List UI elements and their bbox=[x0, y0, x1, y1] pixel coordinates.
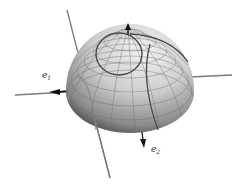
e2-label: e2 bbox=[151, 144, 160, 155]
e2-arrow-icon bbox=[140, 132, 146, 148]
hemisphere bbox=[66, 24, 194, 133]
e1-label: e1 bbox=[42, 70, 51, 81]
axis-line-right bbox=[190, 75, 232, 77]
hemisphere-diagram: e1 e2 bbox=[0, 0, 245, 188]
axis-line-left bbox=[15, 92, 68, 95]
